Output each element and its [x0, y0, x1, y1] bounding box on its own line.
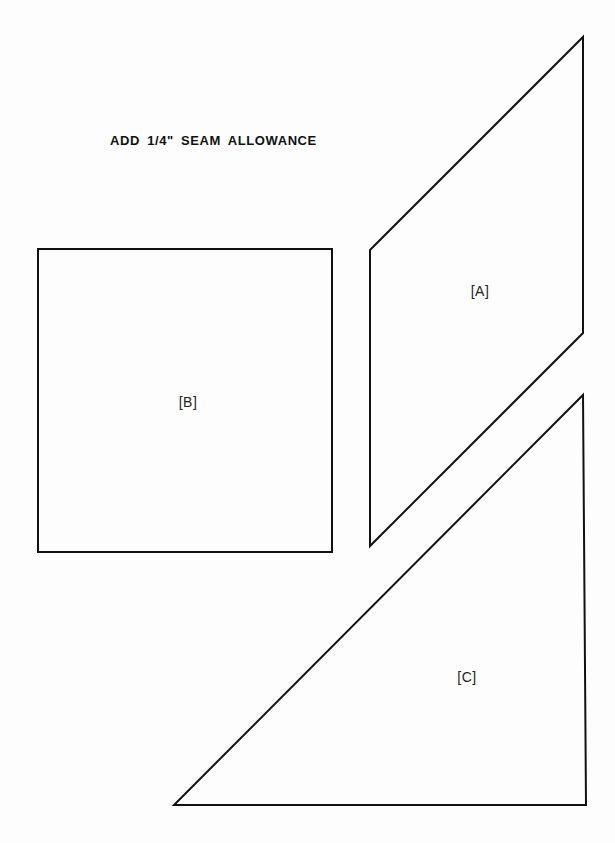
- pattern-pieces-drawing: [0, 0, 615, 843]
- pattern-piece-a-label: [A]: [471, 283, 490, 299]
- pattern-piece-b-label: [B]: [179, 394, 198, 410]
- pattern-piece-c-label: [C]: [457, 669, 476, 685]
- pattern-piece-c-outline: [174, 395, 586, 805]
- pattern-page: ADD 1/4" SEAM ALLOWANCE [A] [B] [C]: [0, 0, 615, 843]
